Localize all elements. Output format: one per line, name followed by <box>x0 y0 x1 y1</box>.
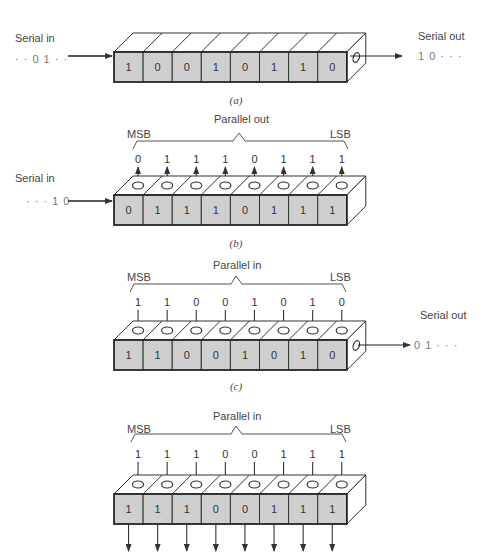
register-cell: 0 <box>172 340 201 370</box>
cell-bit: 1 <box>125 61 131 73</box>
parallel-bit: 1 <box>164 448 170 460</box>
bracket-label: Parallel in <box>213 259 261 271</box>
cell-bit: 0 <box>125 204 131 216</box>
register-cell: 0 <box>230 195 259 225</box>
cell-bit: 1 <box>155 204 161 216</box>
cell-bit: 1 <box>213 204 219 216</box>
parallel-bit: 0 <box>193 296 199 308</box>
parallel-in-bits: 11100111 <box>135 448 345 460</box>
cell-bit: 0 <box>242 503 248 515</box>
parallel-out-bits: 01110111 <box>135 153 345 165</box>
cell-bit: 0 <box>155 61 161 73</box>
cell-bit: 1 <box>155 349 161 361</box>
cell-bit: 1 <box>125 349 131 361</box>
cell-bit: 0 <box>184 349 190 361</box>
register-cell: 0 <box>172 52 201 82</box>
msb-label: MSB <box>127 271 151 283</box>
panel-d: Parallel in MSB LSB 11100111 11100111 <box>114 410 366 551</box>
serial-out-label: Serial out <box>420 309 466 321</box>
serial-out-sequence: 1 0 · · · <box>418 50 462 62</box>
parallel-bit: 0 <box>135 153 141 165</box>
shift-register: 01110111 <box>114 176 366 225</box>
parallel-bit: 1 <box>280 448 286 460</box>
parallel-bit: 0 <box>222 448 228 460</box>
register-cell: 0 <box>260 340 289 370</box>
msb-label: MSB <box>127 423 151 435</box>
parallel-bit: 1 <box>135 296 141 308</box>
parallel-bit: 1 <box>339 448 345 460</box>
register-cell: 0 <box>318 52 347 82</box>
parallel-bit: 0 <box>280 296 286 308</box>
register-cell: 1 <box>289 494 318 524</box>
cell-bit: 1 <box>155 503 161 515</box>
cell-bit: 1 <box>125 503 131 515</box>
parallel-bit: 1 <box>193 153 199 165</box>
parallel-bit: 1 <box>310 448 316 460</box>
serial-out-sequence: 0 1 · · · <box>414 339 458 351</box>
bracket-label: Parallel in <box>213 410 261 422</box>
register-cell: 1 <box>318 195 347 225</box>
bracket <box>133 133 348 149</box>
serial-out-label: Serial out <box>418 30 464 42</box>
parallel-bit: 1 <box>135 448 141 460</box>
register-cell: 1 <box>114 340 143 370</box>
panel-b: Parallel out MSB LSB 01110111 Serial in … <box>15 113 366 250</box>
cell-bit: 1 <box>329 204 335 216</box>
cell-bit: 1 <box>300 204 306 216</box>
caption-b: (b) <box>230 237 243 250</box>
cell-bit: 1 <box>271 503 277 515</box>
register-cell: 0 <box>143 52 172 82</box>
lsb-label: LSB <box>330 271 351 283</box>
register-cell: 0 <box>201 494 230 524</box>
cell-bit: 1 <box>300 503 306 515</box>
cell-bit: 0 <box>271 349 277 361</box>
cell-bit: 1 <box>184 204 190 216</box>
cell-bit: 0 <box>242 61 248 73</box>
cell-bit: 1 <box>242 349 248 361</box>
cell-bit: 1 <box>271 61 277 73</box>
shift-register-diagram: Serial in · · 0 1 · · 10010110 Serial ou… <box>0 0 497 552</box>
cell-bit: 0 <box>184 61 190 73</box>
serial-in-label: Serial in <box>15 172 55 184</box>
cell-bit: 0 <box>329 349 335 361</box>
parallel-out-arrows <box>129 523 333 551</box>
register-cell: 1 <box>201 52 230 82</box>
register-cell: 1 <box>172 494 201 524</box>
register-cell: 1 <box>260 494 289 524</box>
register-cell: 0 <box>114 195 143 225</box>
cell-bit: 1 <box>329 503 335 515</box>
parallel-bit: 1 <box>310 153 316 165</box>
register-cell: 1 <box>289 52 318 82</box>
register-cell: 1 <box>172 195 201 225</box>
register-cell: 1 <box>114 52 143 82</box>
register-cell: 1 <box>201 195 230 225</box>
parallel-bit: 1 <box>193 448 199 460</box>
bracket <box>130 276 346 292</box>
caption-c: (c) <box>230 380 243 393</box>
msb-label: MSB <box>127 128 151 140</box>
panel-c: Parallel in MSB LSB 11001010 11001010 Se… <box>114 259 466 393</box>
lsb-label: LSB <box>330 128 351 140</box>
serial-in-sequence: · · 0 1 · · <box>15 53 68 65</box>
register-cell: 1 <box>143 494 172 524</box>
register-cell: 1 <box>260 52 289 82</box>
cell-bit: 0 <box>213 349 219 361</box>
parallel-in-bits: 11001010 <box>135 296 345 308</box>
register-cell: 0 <box>230 494 259 524</box>
cell-bit: 1 <box>271 204 277 216</box>
register-cell: 1 <box>143 195 172 225</box>
register-cell: 1 <box>289 340 318 370</box>
parallel-bit: 1 <box>222 153 228 165</box>
cell-bit: 1 <box>213 61 219 73</box>
register-cell: 0 <box>318 340 347 370</box>
parallel-bit: 1 <box>339 153 345 165</box>
serial-in-sequence: · · · 1 0 <box>26 195 70 207</box>
register-cell: 1 <box>114 494 143 524</box>
parallel-bit: 1 <box>280 153 286 165</box>
register-cell: 1 <box>318 494 347 524</box>
parallel-bit: 0 <box>251 153 257 165</box>
cell-bit: 1 <box>300 61 306 73</box>
register-cell: 1 <box>143 340 172 370</box>
cell-bit: 0 <box>329 61 335 73</box>
register-cell: 1 <box>230 340 259 370</box>
